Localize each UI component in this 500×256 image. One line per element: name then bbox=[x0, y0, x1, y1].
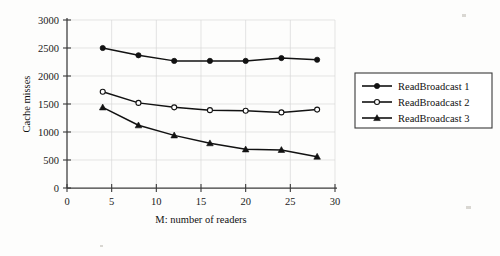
data-point-marker bbox=[315, 57, 320, 62]
x-tick-label: 15 bbox=[196, 196, 207, 207]
y-axis-title: Cache misses bbox=[21, 76, 32, 133]
scan-speck bbox=[466, 206, 471, 209]
data-point-marker bbox=[172, 105, 177, 110]
y-tick-label: 3000 bbox=[38, 15, 59, 26]
y-tick-label: 1000 bbox=[38, 127, 59, 138]
gridlines bbox=[67, 20, 335, 188]
axes bbox=[67, 18, 337, 188]
x-tick-label: 20 bbox=[240, 196, 251, 207]
line-chart: 050010001500200025003000051015202530 M: … bbox=[0, 0, 500, 256]
data-point-marker bbox=[100, 45, 105, 50]
data-point-marker bbox=[99, 104, 106, 110]
x-tick-label: 10 bbox=[151, 196, 162, 207]
y-tick-label: 500 bbox=[43, 155, 59, 166]
data-point-marker bbox=[243, 108, 248, 113]
legend-label: ReadBroadcast 3 bbox=[398, 113, 469, 124]
data-point-marker bbox=[172, 58, 177, 63]
x-tick-label: 0 bbox=[64, 196, 69, 207]
data-point-marker bbox=[279, 55, 284, 60]
x-tick-label: 30 bbox=[330, 196, 341, 207]
data-point-marker bbox=[136, 100, 141, 105]
y-tick-label: 2500 bbox=[38, 43, 59, 54]
data-series bbox=[99, 45, 320, 159]
y-tick-label: 1500 bbox=[38, 99, 59, 110]
x-tick-label: 5 bbox=[109, 196, 114, 207]
x-axis-title: M: number of readers bbox=[155, 214, 246, 225]
x-tick-label: 25 bbox=[285, 196, 296, 207]
scan-speck bbox=[100, 245, 103, 247]
data-point-marker bbox=[243, 58, 248, 63]
data-point-marker bbox=[136, 53, 141, 58]
legend-label: ReadBroadcast 2 bbox=[398, 97, 469, 108]
data-point-marker bbox=[279, 110, 284, 115]
scan-speck bbox=[462, 14, 466, 17]
chart-figure: 050010001500200025003000051015202530 M: … bbox=[0, 0, 500, 256]
y-tick-label: 2000 bbox=[38, 71, 59, 82]
data-point-marker bbox=[315, 107, 320, 112]
data-point-marker bbox=[207, 108, 212, 113]
data-point-marker bbox=[207, 58, 212, 63]
series-2 bbox=[100, 89, 319, 115]
chart-legend: ReadBroadcast 1ReadBroadcast 2ReadBroadc… bbox=[355, 73, 492, 128]
legend-marker bbox=[375, 100, 380, 105]
legend-label: ReadBroadcast 1 bbox=[398, 81, 469, 92]
data-point-marker bbox=[100, 89, 105, 94]
legend-marker bbox=[374, 83, 379, 88]
y-tick-label: 0 bbox=[54, 183, 59, 194]
